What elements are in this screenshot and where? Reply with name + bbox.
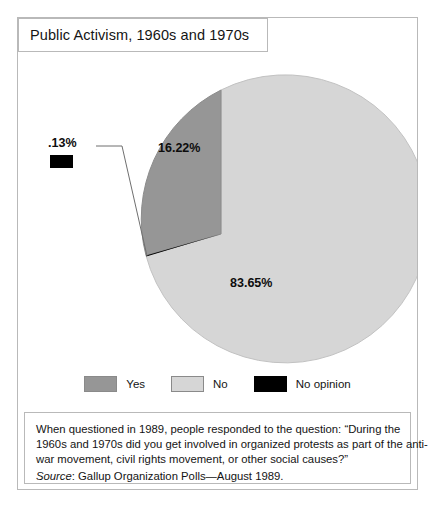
caption-source: Source: Gallup Organization Polls—August… (36, 469, 399, 484)
legend-swatch-yes (84, 376, 117, 392)
figure-title-box: Public Activism, 1960s and 1970s (18, 18, 268, 52)
no-opinion-swatch (50, 155, 73, 168)
legend-item-yes[interactable]: Yes (84, 376, 145, 392)
caption-line-2: 1960s and 1970s did you get involved in … (36, 437, 399, 452)
leader-line (96, 146, 147, 256)
pie-label-no: 83.65% (230, 276, 272, 290)
caption-line-3: war movement, civil rights movement, or … (36, 452, 399, 467)
legend-item-no-opinion[interactable]: No opinion (254, 376, 351, 392)
pie-slice-yes[interactable] (141, 90, 221, 256)
pie-chart: 16.22% 83.65% .13% (18, 52, 417, 392)
caption-box: When questioned in 1989, people responde… (24, 412, 411, 484)
legend-item-no[interactable]: No (171, 376, 228, 392)
legend-label-no: No (213, 378, 228, 390)
legend-label-yes: Yes (126, 378, 145, 390)
page-title: Public Activism, 1960s and 1970s (30, 27, 249, 43)
legend-swatch-no (171, 376, 204, 392)
legend-swatch-no-opinion (254, 376, 287, 392)
pie-chart-svg (18, 52, 417, 392)
figure-frame: Public Activism, 1960s and 1970s 16.22% … (17, 17, 418, 490)
source-label: Source (36, 470, 72, 482)
legend-label-no-opinion: No opinion (296, 378, 351, 390)
pie-label-yes: 16.22% (158, 141, 200, 155)
legend: Yes No No opinion (18, 376, 417, 392)
source-value: : Gallup Organization Polls—August 1989. (72, 470, 284, 482)
pie-label-no-opinion: .13% (48, 136, 77, 150)
caption-line-1: When questioned in 1989, people responde… (36, 422, 399, 437)
